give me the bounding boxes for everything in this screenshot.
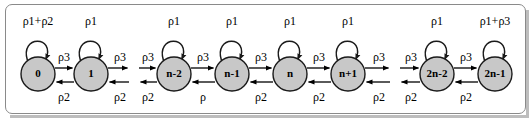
self-loop-rate-label-sn+1: ρ1: [342, 14, 354, 28]
state-node-label: n: [287, 67, 293, 79]
self-loop-rate-label-sn: ρ1: [284, 14, 296, 28]
forward-rate-label-prev2-to-s2n-2: ρ3: [405, 50, 417, 64]
self-loop-rate-label-sn-2: ρ1: [168, 14, 180, 28]
state-node-label: 2n-2: [427, 67, 448, 79]
self-loop-rate-label-s2n-2: ρ1: [431, 14, 443, 28]
state-node-label: 2n-1: [485, 67, 506, 79]
state-node-label: 1: [88, 67, 94, 79]
backward-rate-label-sn-1-to-sn-2: ρ: [200, 90, 206, 104]
state-node-s0[interactable]: 0: [21, 57, 55, 91]
state-node-label: n-1: [224, 67, 239, 79]
forward-rate-label-s0-to-s1: ρ3: [58, 50, 70, 64]
state-node-label: n+1: [339, 67, 357, 79]
backward-rate-label-next-to-s1: ρ2: [114, 90, 126, 104]
state-node-sn+1[interactable]: n+1: [331, 57, 365, 91]
state-node-sn-1[interactable]: n-1: [215, 57, 249, 91]
state-node-s1[interactable]: 1: [74, 57, 108, 91]
markov-chain-diagram: 01n-2n-1nn+12n-22n-1 ρ1+ρ2ρ1ρ1ρ1ρ1ρ1ρ1ρ1…: [0, 0, 532, 121]
state-node-sn-2[interactable]: n-2: [157, 57, 191, 91]
backward-rate-label-sn-2-to-prev: ρ2: [142, 90, 154, 104]
forward-rate-label-sn-2-to-sn-1: ρ3: [197, 50, 209, 64]
forward-rate-label-s2n-2-to-s2n-1: ρ3: [460, 50, 472, 64]
state-node-label: n-2: [166, 67, 182, 79]
backward-rate-label-sn+1-to-sn: ρ2: [313, 90, 325, 104]
forward-rate-label-prev-to-sn-2: ρ3: [142, 50, 154, 64]
state-node-s2n-1[interactable]: 2n-1: [478, 57, 512, 91]
backward-rate-label-s2n-2-to-prev2: ρ2: [405, 90, 417, 104]
state-node-label: 0: [35, 67, 41, 79]
forward-rate-label-sn-to-sn+1: ρ3: [313, 50, 325, 64]
state-node-s2n-2[interactable]: 2n-2: [420, 57, 454, 91]
backward-rate-label-sn-to-sn-1: ρ2: [255, 90, 267, 104]
self-loop-rate-label-sn-1: ρ1: [226, 14, 238, 28]
forward-rate-label-sn-1-to-sn: ρ3: [255, 50, 267, 64]
backward-rate-label-next2-to-sn+1: ρ2: [373, 90, 385, 104]
state-node-sn[interactable]: n: [273, 57, 307, 91]
transition-arrow-layer: [55, 68, 478, 82]
self-loop-rate-label-s1: ρ1: [85, 14, 97, 28]
forward-rate-label-sn+1-to-next2: ρ3: [373, 50, 385, 64]
self-loop-rate-label-s2n-1: ρ1+ρ3: [480, 14, 511, 28]
self-loop-rate-label-s0: ρ1+ρ2: [23, 14, 54, 28]
forward-rate-label-s1-to-next: ρ3: [114, 50, 126, 64]
figure-root: 01n-2n-1nn+12n-22n-1 ρ1+ρ2ρ1ρ1ρ1ρ1ρ1ρ1ρ1…: [0, 0, 532, 121]
backward-rate-label-s1-to-s0: ρ2: [58, 90, 70, 104]
backward-rate-label-s2n-1-to-s2n-2: ρ2: [460, 90, 472, 104]
